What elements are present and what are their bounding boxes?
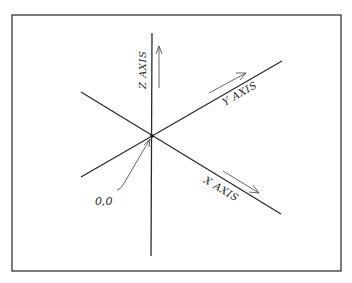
diagram-frame <box>12 15 341 271</box>
z-axis-label: Z AXIS <box>137 51 148 90</box>
axes-diagram: Z AXIS Y AXIS X AXIS 0,0 <box>0 0 352 283</box>
y-axis-line <box>81 61 282 177</box>
z-axis-line <box>151 33 152 256</box>
origin-label: 0,0 <box>95 195 113 208</box>
origin-point <box>150 134 154 138</box>
z-direction-arrow-icon <box>156 46 162 88</box>
